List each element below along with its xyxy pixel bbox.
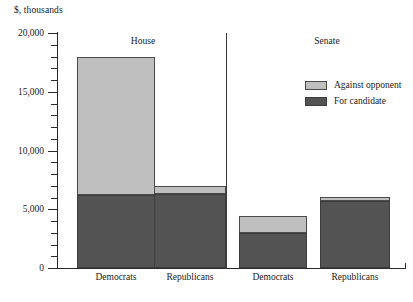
legend: Against opponent For candidate (305, 78, 401, 110)
y-tick-label: 0 (0, 263, 44, 273)
y-tick-minor (51, 233, 57, 234)
category-label-house-republicans: Republicans (167, 272, 214, 282)
y-tick-minor (51, 174, 57, 175)
bar-senate-republicans (320, 197, 390, 268)
bar-segment-for-candidate (77, 195, 155, 268)
legend-item-for-candidate: For candidate (305, 94, 401, 108)
legend-swatch-for-candidate (305, 97, 327, 106)
bar-senate-democrats (239, 216, 307, 268)
bar-segment-against-opponent (239, 216, 307, 233)
category-label-senate-democrats: Democrats (252, 272, 293, 282)
bar-segment-for-candidate (154, 194, 226, 268)
y-tick-label: 5,000 (0, 204, 44, 214)
bar-house-republicans (154, 186, 226, 268)
y-tick-minor (51, 104, 57, 105)
legend-swatch-against-opponent (305, 81, 327, 90)
bar-segment-against-opponent (77, 57, 155, 196)
legend-item-against-opponent: Against opponent (305, 78, 401, 92)
y-tick-major (48, 151, 57, 152)
y-tick-minor (51, 256, 57, 257)
y-tick-minor (51, 45, 57, 46)
category-label-senate-republicans: Republicans (332, 272, 379, 282)
y-tick-minor (51, 186, 57, 187)
y-tick-major (48, 92, 57, 93)
y-tick-major (48, 209, 57, 210)
y-tick-label: 15,000 (0, 87, 44, 97)
y-tick-minor (51, 198, 57, 199)
panel-divider-line (226, 33, 227, 269)
y-tick-label: 10,000 (0, 146, 44, 156)
legend-label-against-opponent: Against opponent (334, 80, 401, 90)
x-axis-end-tick (405, 263, 406, 269)
y-tick-major (48, 268, 57, 269)
y-tick-minor (51, 80, 57, 81)
bar-segment-against-opponent (154, 186, 226, 194)
x-axis-line (57, 268, 406, 269)
y-tick-minor (51, 139, 57, 140)
panel-label-house: House (131, 36, 155, 46)
y-tick-major (48, 33, 57, 34)
y-axis-line (57, 32, 58, 269)
bar-segment-for-candidate (320, 201, 390, 268)
category-label-house-democrats: Democrats (95, 272, 136, 282)
y-tick-minor (51, 57, 57, 58)
y-tick-minor (51, 162, 57, 163)
bar-house-democrats (77, 57, 155, 269)
y-tick-minor (51, 115, 57, 116)
y-tick-label: 20,000 (0, 28, 44, 38)
y-tick-minor (51, 245, 57, 246)
panel-label-senate: Senate (314, 36, 339, 46)
bar-segment-for-candidate (239, 233, 307, 268)
stacked-bar-chart: $, thousands 05,00010,00015,00020,000 De… (0, 0, 413, 302)
y-tick-minor (51, 68, 57, 69)
legend-label-for-candidate: For candidate (334, 96, 386, 106)
y-tick-minor (51, 127, 57, 128)
y-axis-title: $, thousands (14, 5, 63, 15)
y-tick-minor (51, 221, 57, 222)
